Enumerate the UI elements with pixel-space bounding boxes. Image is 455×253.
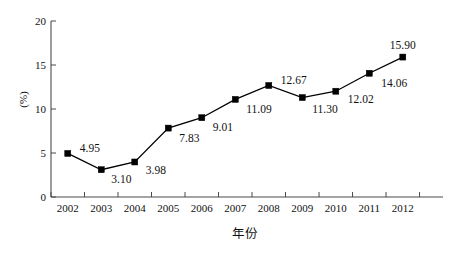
data-point-marker	[199, 115, 205, 121]
series-line-path	[68, 57, 403, 170]
x-tick-label: 2012	[381, 203, 425, 214]
data-point-marker	[400, 54, 406, 60]
y-tick-label: 5	[14, 148, 46, 159]
data-point-label: 3.10	[111, 174, 131, 186]
data-point-label: 12.02	[348, 94, 374, 106]
y-tick-label: 15	[14, 60, 46, 71]
data-point-label: 4.95	[80, 143, 100, 155]
data-point-markers	[65, 54, 406, 173]
data-point-label: 11.09	[246, 104, 271, 116]
data-point-marker	[266, 83, 272, 89]
data-point-label: 3.98	[146, 165, 166, 177]
x-axis-ticks	[51, 192, 420, 197]
data-point-marker	[98, 167, 104, 173]
data-point-marker	[366, 70, 372, 76]
data-point-marker	[165, 125, 171, 131]
data-point-marker	[299, 95, 305, 101]
y-tick-label: 10	[14, 104, 46, 115]
data-point-marker	[65, 150, 71, 156]
y-axis-ticks	[51, 21, 56, 197]
data-point-label: 7.83	[179, 133, 199, 145]
data-point-label: 15.90	[385, 40, 421, 52]
data-point-marker	[232, 96, 238, 102]
y-tick-label: 20	[14, 16, 46, 27]
data-point-label: 14.06	[381, 78, 407, 90]
line-chart: (%) 年份 05101520 200220032004200520062007…	[0, 0, 455, 253]
data-point-marker	[333, 88, 339, 94]
data-point-label: 11.30	[312, 104, 337, 116]
data-point-label: 9.01	[213, 122, 233, 134]
data-point-label: 12.67	[281, 75, 307, 87]
x-axis-title: 年份	[205, 228, 285, 241]
data-point-marker	[132, 159, 138, 165]
y-tick-label: 0	[14, 192, 46, 203]
